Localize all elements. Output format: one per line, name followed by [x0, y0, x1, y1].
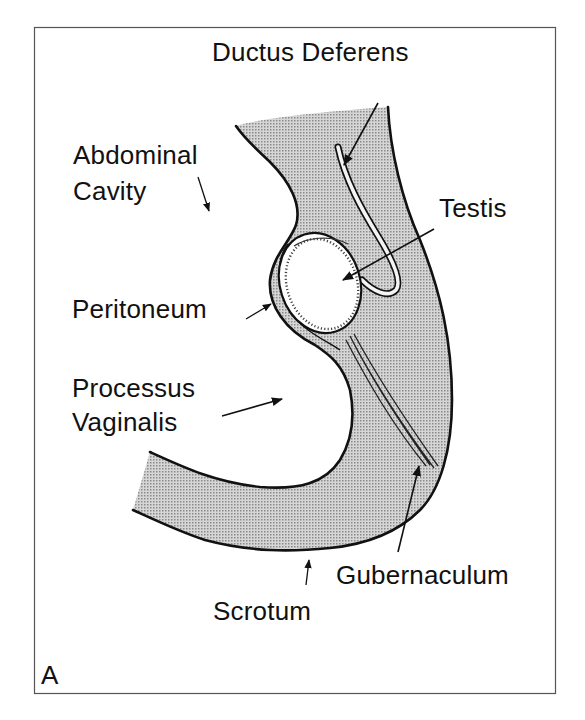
arrow-processus: [222, 399, 282, 416]
figure-panel: Ductus Deferens Abdominal Cavity Testis …: [0, 0, 585, 720]
label-peritoneum: Peritoneum: [72, 294, 207, 325]
label-ductus-deferens: Ductus Deferens: [212, 37, 409, 68]
label-testis: Testis: [439, 193, 507, 224]
panel-letter: A: [41, 660, 59, 691]
label-cavity: Cavity: [73, 176, 146, 207]
label-abdominal: Abdominal: [73, 140, 198, 171]
arrow-scrotum: [306, 560, 309, 585]
label-vaginalis: Vaginalis: [72, 407, 177, 438]
label-scrotum: Scrotum: [213, 596, 311, 627]
arrow-abdominal: [198, 177, 209, 211]
label-processus: Processus: [72, 373, 195, 404]
arrow-peritoneum: [246, 304, 271, 319]
label-gubernaculum: Gubernaculum: [336, 560, 509, 591]
